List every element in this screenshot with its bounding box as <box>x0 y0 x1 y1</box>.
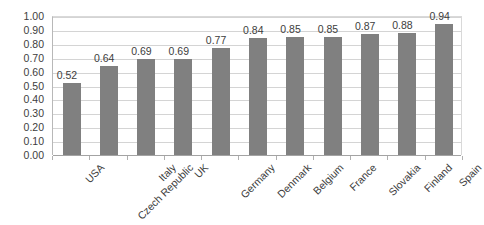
x-tick-mark <box>164 156 165 160</box>
x-tick-mark <box>127 156 128 160</box>
y-tick-label: 0.00 <box>24 150 44 160</box>
y-tick-label: 0.70 <box>24 53 44 63</box>
x-tick-mark <box>387 156 388 160</box>
bar-value-label: 0.94 <box>417 11 463 22</box>
bar[interactable] <box>286 37 304 155</box>
bar[interactable] <box>100 66 118 155</box>
x-tick-mark <box>350 156 351 160</box>
bar-slot <box>388 17 425 155</box>
x-category-label: UK <box>193 162 211 180</box>
bar[interactable] <box>249 38 267 155</box>
bar[interactable] <box>212 48 230 155</box>
x-tick-mark <box>52 156 53 160</box>
x-tick-mark <box>89 156 90 160</box>
x-category-label: France <box>347 162 378 193</box>
x-category-label: Slovakia <box>386 162 422 198</box>
x-tick-mark <box>238 156 239 160</box>
bar-slot <box>426 17 463 155</box>
bar-slot <box>351 17 388 155</box>
gridline <box>53 155 461 156</box>
bar-slot <box>239 17 276 155</box>
x-category-label: USA <box>83 162 106 185</box>
y-tick-label: 1.00 <box>24 11 44 21</box>
bar[interactable] <box>174 59 192 155</box>
bar[interactable] <box>324 37 342 155</box>
y-tick-label: 0.90 <box>24 25 44 35</box>
bar[interactable] <box>137 59 155 155</box>
x-tick-mark <box>201 156 202 160</box>
x-category-label: Belgium <box>311 162 346 197</box>
x-tick-mark <box>313 156 314 160</box>
bar-value-label: 0.69 <box>156 46 202 57</box>
bar-slot <box>128 17 165 155</box>
x-category-label: Denmark <box>275 162 313 200</box>
x-tick-mark <box>462 156 463 160</box>
y-tick-label: 0.10 <box>24 136 44 146</box>
x-tick-mark <box>276 156 277 160</box>
bar[interactable] <box>63 83 81 155</box>
bar[interactable] <box>435 24 453 155</box>
y-tick-label: 0.80 <box>24 39 44 49</box>
y-tick-label: 0.60 <box>24 67 44 77</box>
y-tick-label: 0.50 <box>24 81 44 91</box>
bar-slot <box>277 17 314 155</box>
y-axis: 1.000.900.800.700.600.500.400.300.200.10… <box>0 0 48 225</box>
x-tick-mark <box>425 156 426 160</box>
plot-area <box>52 16 462 155</box>
bar-value-label: 0.77 <box>193 35 239 46</box>
x-category-label: Finland <box>422 162 454 194</box>
y-tick-label: 0.40 <box>24 94 44 104</box>
bar-slot <box>314 17 351 155</box>
bar[interactable] <box>398 33 416 155</box>
bar-slot <box>53 17 90 155</box>
bar-value-label: 0.52 <box>44 70 90 81</box>
x-category-label: Spain <box>457 162 484 189</box>
bar[interactable] <box>361 34 379 155</box>
y-tick-label: 0.30 <box>24 108 44 118</box>
x-category-label: Germany <box>238 162 276 200</box>
y-tick-label: 0.20 <box>24 122 44 132</box>
bar-slot <box>90 17 127 155</box>
